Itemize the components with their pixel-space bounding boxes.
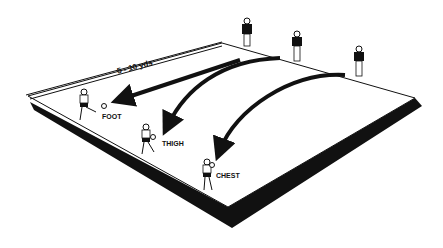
label-thigh: THIGH bbox=[162, 140, 184, 147]
server-player-3 bbox=[354, 46, 364, 76]
label-foot: FOOT bbox=[102, 113, 121, 120]
label-chest: CHEST bbox=[216, 172, 240, 179]
server-player-1 bbox=[242, 18, 252, 46]
server-player-2 bbox=[292, 31, 302, 61]
drill-diagram bbox=[0, 0, 443, 248]
